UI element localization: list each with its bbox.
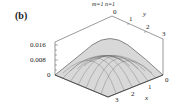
x-tick-label: 0 xyxy=(165,77,169,84)
z-tick-label: 0.008 xyxy=(30,57,46,64)
z-tick-label: 0.016 xyxy=(30,42,46,49)
y-axis-label: y xyxy=(143,11,146,18)
z-axis-ticks xyxy=(55,45,58,75)
x-tick-label: 1 xyxy=(148,84,152,91)
x-tick-label: 2 xyxy=(131,91,135,98)
surface-mesh xyxy=(55,39,163,98)
y-tick-label: 1 xyxy=(129,16,133,23)
z-tick-label: 0 xyxy=(47,72,51,79)
y-tick-label: 2 xyxy=(146,24,150,31)
x-tick-label: 3 xyxy=(115,97,119,104)
y-tick-label: 0 xyxy=(113,9,117,16)
y-tick-label: 3 xyxy=(162,31,166,38)
x-axis-label: x xyxy=(145,95,148,102)
